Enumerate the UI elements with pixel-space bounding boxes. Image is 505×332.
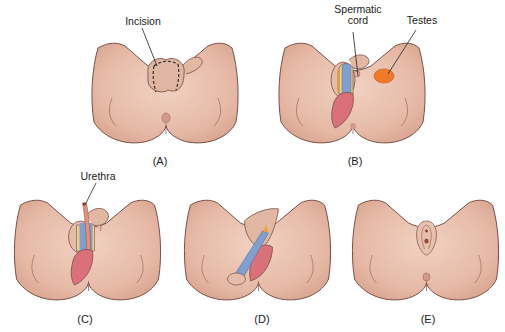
caption-e: (E) bbox=[408, 313, 448, 325]
panel-d: (D) bbox=[180, 195, 340, 330]
caption-c: (C) bbox=[65, 313, 105, 325]
panel-e: (E) bbox=[348, 195, 505, 330]
incision-label: Incision bbox=[113, 16, 173, 27]
caption-d: (D) bbox=[242, 313, 282, 325]
panel-a: Incision (A) bbox=[85, 38, 245, 168]
spermatic-cord-label: Spermatic cord bbox=[328, 4, 388, 26]
leader-lines-b bbox=[272, 38, 442, 148]
anatomy-illustration-e bbox=[348, 195, 503, 305]
incision-leader-line bbox=[85, 38, 245, 148]
testes-label: Testes bbox=[397, 15, 447, 26]
urethra-leader-line bbox=[10, 195, 170, 305]
panel-c: Urethra (C) bbox=[10, 195, 170, 330]
urethra-label: Urethra bbox=[68, 171, 128, 182]
caption-b: (B) bbox=[335, 155, 375, 167]
panel-b: Spermatic cord Testes (B) bbox=[272, 38, 442, 168]
anatomy-illustration-d bbox=[180, 195, 335, 305]
spermatic-line2: cord bbox=[328, 15, 388, 26]
caption-a: (A) bbox=[140, 155, 180, 167]
